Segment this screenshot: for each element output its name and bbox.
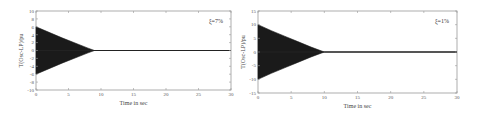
y-tick-label: 6 bbox=[32, 25, 35, 30]
x-tick-label: 25 bbox=[421, 95, 427, 100]
y-tick-label: -15 bbox=[249, 91, 256, 96]
x-tick-label: 25 bbox=[196, 92, 202, 97]
chart-panel-left: 0510152025301086420-2-4-6-8-10Time in se… bbox=[0, 0, 240, 116]
y-tick-label: -8 bbox=[30, 80, 35, 85]
y-tick-label: 15 bbox=[251, 9, 257, 14]
x-tick-label: 5 bbox=[67, 92, 70, 97]
line-chart: 0510152025301086420-2-4-6-8-10Time in se… bbox=[0, 0, 240, 116]
y-axis-label: T(Osc-LP)/pu bbox=[18, 34, 25, 68]
x-tick-label: 10 bbox=[322, 95, 328, 100]
y-tick-label: -2 bbox=[30, 56, 35, 61]
y-axis-label: T(Osc-LP)/pu bbox=[240, 35, 247, 69]
y-tick-label: 0 bbox=[254, 50, 257, 55]
y-tick-label: -6 bbox=[30, 72, 35, 77]
x-tick-label: 20 bbox=[388, 95, 394, 100]
y-tick-label: 0 bbox=[32, 48, 35, 53]
chart-panel-right: 051015202530151050-5-10-15Time in secT(O… bbox=[240, 0, 480, 116]
y-tick-label: -10 bbox=[249, 77, 256, 82]
y-tick-label: 8 bbox=[32, 17, 35, 22]
damping-annotation: ξ=7% bbox=[209, 18, 223, 25]
y-tick-label: 10 bbox=[29, 9, 35, 14]
y-tick-label: -4 bbox=[30, 64, 35, 69]
y-tick-label: -5 bbox=[252, 63, 257, 68]
x-tick-label: 30 bbox=[229, 92, 235, 97]
y-tick-label: 10 bbox=[251, 22, 257, 27]
x-tick-label: 5 bbox=[290, 95, 293, 100]
x-tick-label: 15 bbox=[131, 92, 137, 97]
x-tick-label: 15 bbox=[355, 95, 361, 100]
line-chart: 051015202530151050-5-10-15Time in secT(O… bbox=[240, 0, 480, 116]
y-tick-label: 2 bbox=[32, 40, 35, 45]
y-tick-label: 4 bbox=[32, 33, 35, 38]
damping-annotation: ξ=1% bbox=[435, 18, 449, 25]
x-axis-label: Time in sec bbox=[344, 103, 372, 109]
x-tick-label: 0 bbox=[35, 92, 38, 97]
x-tick-label: 10 bbox=[99, 92, 105, 97]
x-tick-label: 20 bbox=[164, 92, 170, 97]
x-tick-label: 0 bbox=[257, 95, 260, 100]
x-tick-label: 30 bbox=[455, 95, 461, 100]
x-axis-label: Time in sec bbox=[120, 100, 148, 106]
y-tick-label: -10 bbox=[27, 88, 34, 93]
y-tick-label: 5 bbox=[254, 36, 257, 41]
